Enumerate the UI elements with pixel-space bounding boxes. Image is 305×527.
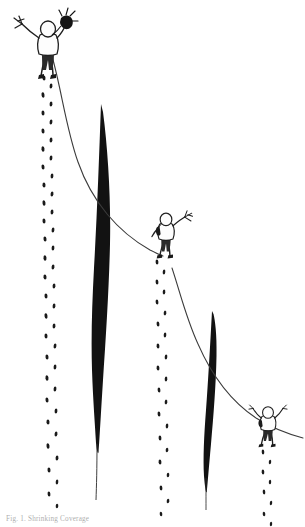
drawing-background (0, 0, 305, 527)
figure-middle-head (160, 213, 172, 225)
illustration-scene: Fig. 1. Shrinking Coverage (0, 0, 305, 527)
ink-drawing (0, 0, 305, 527)
figure-caption: Fig. 1. Shrinking Coverage (6, 515, 286, 524)
figure-lower-right-head (263, 407, 274, 419)
